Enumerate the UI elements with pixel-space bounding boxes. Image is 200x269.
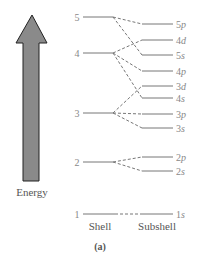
subshell-label: 5p [176,19,186,30]
subshell-label: 1s [176,209,185,220]
subshell-label: 4d [176,35,187,46]
subshell-label: 4p [176,66,186,77]
connector-dashed-line [113,40,142,53]
connector-dashed-line [113,53,142,98]
connector-dashed-line [113,162,142,171]
shell-number: 1 [75,209,80,220]
subshell-label: 3s [176,123,185,134]
subshell-label: 4s [176,93,185,104]
energy-level-diagram: Energy 54321 5p4d5s4p3d4s3p3s2p2s1s Shel… [0,0,200,269]
figure-caption: (a) [94,241,106,253]
connector-dashed-line [113,113,142,128]
energy-arrow-icon [16,15,47,181]
shell-number: 3 [75,108,80,119]
subshell-label: 2p [176,152,186,163]
connector-dashed-line [113,113,142,114]
energy-label: Energy [16,186,48,198]
shell-number: 5 [75,12,80,23]
connector-dashed-line [113,53,142,71]
subshell-label: 3p [176,109,186,120]
shell-number: 2 [75,157,80,168]
subshell-header: Subshell [138,220,176,232]
shell-header: Shell [89,220,112,232]
connector-dashed-line [113,86,142,113]
shell-number: 4 [75,48,80,59]
connector-dashed-line [113,157,142,162]
subshell-label: 2s [176,166,185,177]
subshell-label: 5s [176,50,185,61]
subshell-label: 3d [176,81,187,92]
